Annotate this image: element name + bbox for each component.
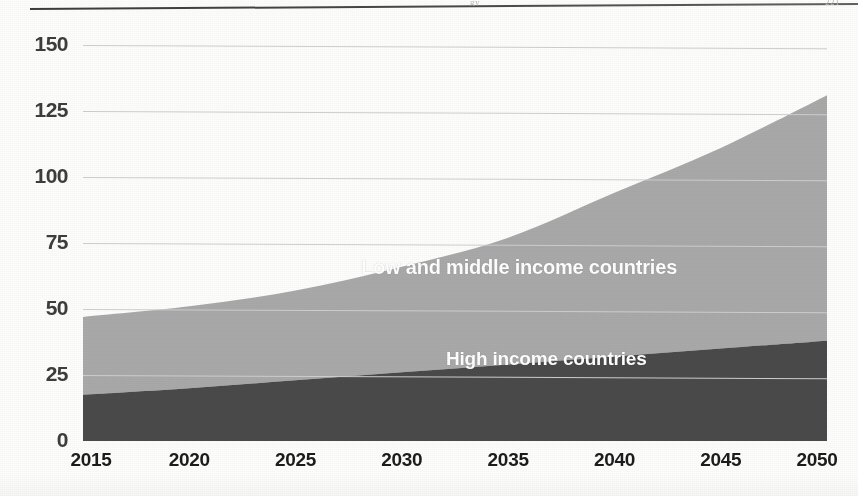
x-tick-label: 2020 (169, 449, 210, 471)
plot-area (83, 45, 827, 441)
x-tick-label: 2040 (594, 449, 635, 471)
x-tick-label: 2015 (70, 449, 111, 471)
x-tick-label: 2045 (700, 449, 741, 471)
y-tick-label: 0 (6, 428, 68, 452)
chart-figure: gy 221 0255075100125150 Low and middle i… (0, 0, 858, 496)
y-tick-label: 150 (6, 32, 68, 56)
x-tick-label: 2030 (381, 449, 422, 471)
series-label-high-income: High income countries (446, 348, 647, 370)
scan-bottom-smudge (0, 474, 858, 496)
y-tick-label: 125 (6, 98, 68, 122)
page-header-ghost-center: gy (470, 0, 480, 6)
x-tick-label: 2025 (275, 449, 316, 471)
y-tick-label: 25 (6, 362, 68, 386)
page-top-rule (30, 3, 858, 10)
x-tick-label: 2050 (796, 449, 837, 471)
y-tick-label: 50 (6, 296, 68, 320)
x-tick-label: 2035 (488, 449, 529, 471)
page-header-ghost-right: 221 (825, 0, 840, 6)
y-axis: 0255075100125150 (0, 45, 68, 441)
y-tick-label: 100 (6, 164, 68, 188)
y-tick-label: 75 (6, 230, 68, 254)
x-axis: 20152020202520302035204020452050 (83, 449, 827, 477)
series-label-low-and-middle-income: Low and middle income countries (361, 256, 677, 279)
